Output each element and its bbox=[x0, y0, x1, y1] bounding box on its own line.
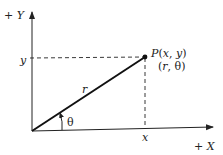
radius-line bbox=[32, 57, 145, 131]
x-axis bbox=[32, 127, 213, 131]
coordinate-diagram: + Y + X y x r θ P(x, y) (r, θ) bbox=[0, 0, 223, 155]
radius-label: r bbox=[82, 83, 88, 96]
point-polar-label: (r, θ) bbox=[158, 60, 185, 73]
y-tick-label: y bbox=[19, 54, 27, 67]
x-tick-label: x bbox=[142, 131, 149, 144]
angle-label: θ bbox=[67, 116, 74, 129]
point-p bbox=[143, 55, 148, 60]
angle-arc bbox=[60, 113, 62, 130]
x-axis-label: + X bbox=[194, 140, 216, 153]
y-projection-line bbox=[30, 57, 145, 58]
point-cartesian-label: P(x, y) bbox=[150, 47, 186, 60]
y-axis-label: + Y bbox=[4, 9, 26, 22]
